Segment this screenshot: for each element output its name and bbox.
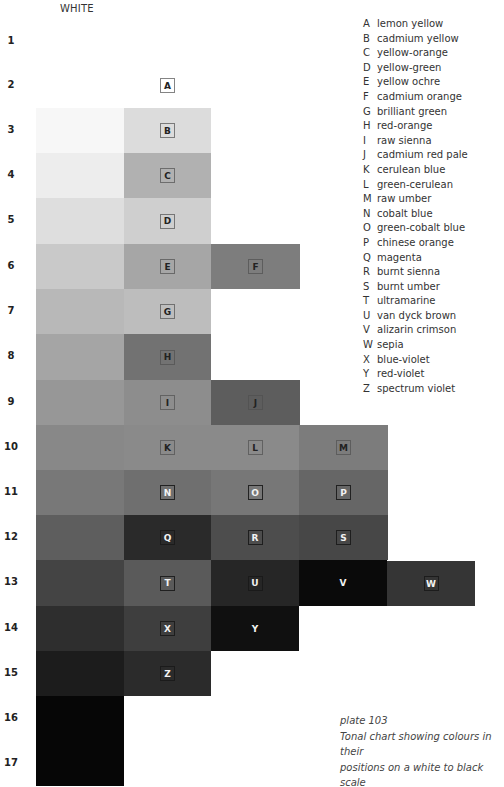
swatch-g: G bbox=[124, 289, 211, 334]
legend-item: Dyellow-green bbox=[363, 61, 468, 76]
legend-item: Ogreen-cobalt blue bbox=[363, 221, 468, 236]
legend-item: Wsepia bbox=[363, 338, 468, 353]
legend-item: Valizarin crimson bbox=[363, 323, 468, 338]
swatch-label: P bbox=[336, 485, 351, 500]
legend-name: spectrum violet bbox=[377, 382, 455, 397]
legend-item: Zspectrum violet bbox=[363, 382, 468, 397]
swatch-label: W bbox=[424, 576, 439, 591]
swatch-u: U bbox=[211, 560, 299, 606]
caption-line-2: positions on a white to black scale bbox=[340, 760, 504, 787]
legend-item: Kcerulean blue bbox=[363, 163, 468, 178]
row-number: 10 bbox=[0, 441, 22, 452]
legend-name: yellow-orange bbox=[377, 46, 448, 61]
swatch-label: J bbox=[248, 395, 263, 410]
swatch-label: Z bbox=[160, 666, 175, 681]
legend-item: Xblue-violet bbox=[363, 353, 468, 368]
gray-swatch-row-6 bbox=[36, 244, 124, 289]
legend-letter: F bbox=[363, 90, 377, 105]
swatch-label: O bbox=[248, 485, 263, 500]
swatch-v: V bbox=[299, 560, 387, 606]
swatch-label: V bbox=[336, 576, 351, 591]
swatch-label: F bbox=[248, 259, 263, 274]
legend-letter: D bbox=[363, 61, 377, 76]
swatch-label: A bbox=[160, 78, 175, 93]
legend-name: sepia bbox=[377, 338, 404, 353]
legend-item: Bcadmium yellow bbox=[363, 32, 468, 47]
gray-swatch-row-14 bbox=[36, 606, 124, 651]
legend-name: cerulean blue bbox=[377, 163, 445, 178]
legend-item: Jcadmium red pale bbox=[363, 148, 468, 163]
legend-letter: T bbox=[363, 294, 377, 309]
swatch-m: M bbox=[299, 425, 388, 470]
legend-item: Hred-orange bbox=[363, 119, 468, 134]
legend-letter: J bbox=[363, 148, 377, 163]
legend-name: green-cerulean bbox=[377, 178, 453, 193]
swatch-label: H bbox=[160, 350, 175, 365]
legend-letter: K bbox=[363, 163, 377, 178]
swatch-z: Z bbox=[124, 651, 211, 696]
figure-caption: plate 103 Tonal chart showing colours in… bbox=[340, 713, 504, 787]
row-number: 3 bbox=[0, 124, 22, 135]
legend-item: Cyellow-orange bbox=[363, 46, 468, 61]
row-number: 6 bbox=[0, 260, 22, 271]
legend-letter: C bbox=[363, 46, 377, 61]
swatch-d: D bbox=[124, 198, 211, 244]
legend-name: yellow-green bbox=[377, 61, 441, 76]
legend-letter: V bbox=[363, 323, 377, 338]
row-number: 14 bbox=[0, 622, 22, 633]
gray-swatch-row-7 bbox=[36, 289, 124, 334]
legend-item: Qmagenta bbox=[363, 251, 468, 266]
row-number: 11 bbox=[0, 486, 22, 497]
swatch-label: M bbox=[336, 440, 351, 455]
row-number: 4 bbox=[0, 169, 22, 180]
legend-letter: B bbox=[363, 32, 377, 47]
legend-item: Ncobalt blue bbox=[363, 207, 468, 222]
swatch-n: N bbox=[124, 470, 211, 515]
legend-item: Pchinese orange bbox=[363, 236, 468, 251]
swatch-label: L bbox=[248, 440, 263, 455]
legend-letter: L bbox=[363, 178, 377, 193]
row-number: 16 bbox=[0, 712, 22, 723]
legend-name: blue-violet bbox=[377, 353, 430, 368]
legend-name: van dyck brown bbox=[377, 309, 456, 324]
swatch-x: X bbox=[124, 606, 211, 651]
gray-swatch-row-16-17 bbox=[36, 696, 124, 786]
legend-letter: E bbox=[363, 75, 377, 90]
gray-swatch-row-9 bbox=[36, 380, 124, 425]
row-number: 17 bbox=[0, 757, 22, 768]
legend-name: raw sienna bbox=[377, 134, 432, 149]
legend-name: lemon yellow bbox=[377, 17, 443, 32]
swatch-label: N bbox=[160, 485, 175, 500]
gray-swatch-row-3 bbox=[36, 108, 124, 153]
swatch-label: X bbox=[160, 621, 175, 636]
swatch-s: S bbox=[299, 515, 388, 560]
swatch-q: Q bbox=[124, 515, 211, 560]
swatch-label: S bbox=[336, 530, 351, 545]
row-number: 1 bbox=[0, 35, 22, 46]
legend-letter: Q bbox=[363, 251, 377, 266]
legend-name: burnt umber bbox=[377, 280, 440, 295]
legend-letter: U bbox=[363, 309, 377, 324]
legend-item: Eyellow ochre bbox=[363, 75, 468, 90]
swatch-k: K bbox=[124, 425, 211, 470]
legend-item: Gbrilliant green bbox=[363, 105, 468, 120]
swatch-o: O bbox=[211, 470, 299, 515]
legend-letter: Z bbox=[363, 382, 377, 397]
swatch-b: B bbox=[124, 108, 211, 153]
colour-legend: Alemon yellow Bcadmium yellow Cyellow-or… bbox=[363, 17, 468, 396]
legend-letter: P bbox=[363, 236, 377, 251]
legend-name: raw umber bbox=[377, 192, 431, 207]
legend-item: Sburnt umber bbox=[363, 280, 468, 295]
row-number: 5 bbox=[0, 214, 22, 225]
swatch-label: C bbox=[160, 168, 175, 183]
row-number: 7 bbox=[0, 305, 22, 316]
row-number: 2 bbox=[0, 79, 22, 90]
row-number: 15 bbox=[0, 667, 22, 678]
swatch-c: C bbox=[124, 153, 211, 198]
swatch-label: U bbox=[248, 576, 263, 591]
legend-name: green-cobalt blue bbox=[377, 221, 465, 236]
swatch-label: D bbox=[160, 214, 175, 229]
legend-letter: R bbox=[363, 265, 377, 280]
row-number: 13 bbox=[0, 576, 22, 587]
legend-letter: W bbox=[363, 338, 377, 353]
